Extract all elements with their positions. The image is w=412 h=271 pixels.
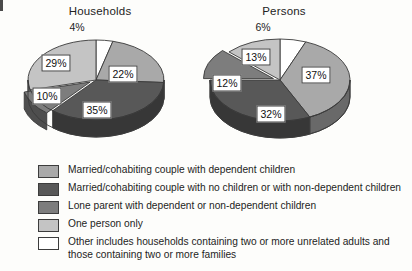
pie-label-households-2: 35%: [82, 102, 111, 119]
legend-item-other: Other includes households containing two…: [0, 235, 412, 261]
legend-item-lone-parent: Lone parent with dependent or non-depend…: [0, 199, 412, 214]
pie-label-households-1: 22%: [108, 66, 137, 83]
legend-label-married-no-children: Married/cohabiting couple with no childr…: [68, 181, 401, 194]
chart-title-persons: Persons: [194, 4, 374, 19]
pie-charts-area: Households 4% 22%35%10%29% Persons 6% 37…: [0, 0, 412, 160]
legend-swatch-other: [38, 237, 59, 250]
pie-label-persons-3: 12%: [212, 75, 241, 92]
legend-swatch-married-no-children: [38, 183, 59, 196]
legend-label-married-dependent: Married/cohabiting couple with dependent…: [68, 163, 295, 176]
callout-households: 4%: [12, 20, 188, 34]
figure-root: Households 4% 22%35%10%29% Persons 6% 37…: [0, 0, 412, 271]
chart-persons: Persons 6% 37%32%12%13%: [194, 0, 374, 152]
pie-label-persons-2: 32%: [256, 106, 285, 123]
pie-wrap-persons: 37%32%12%13%: [194, 34, 374, 152]
legend-item-one-person: One person only: [0, 217, 412, 232]
chart-households: Households 4% 22%35%10%29%: [12, 0, 188, 152]
legend-label-other: Other includes households containing two…: [68, 235, 412, 261]
legend-swatch-married-dependent: [38, 165, 59, 178]
pie-label-households-3: 10%: [32, 88, 61, 105]
legend: Married/cohabiting couple with dependent…: [0, 163, 412, 271]
legend-item-married-no-children: Married/cohabiting couple with no childr…: [0, 181, 412, 196]
pie-wrap-households: 22%35%10%29%: [12, 34, 188, 152]
legend-item-married-dependent: Married/cohabiting couple with dependent…: [0, 163, 412, 178]
legend-label-lone-parent: Lone parent with dependent or non-depend…: [68, 199, 316, 212]
pie-label-persons-1: 37%: [301, 67, 330, 84]
pie-svg-persons: [194, 34, 374, 152]
pie-label-persons-4: 13%: [241, 49, 270, 66]
legend-swatch-one-person: [38, 219, 59, 232]
legend-swatch-lone-parent: [38, 201, 59, 214]
chart-title-households: Households: [12, 4, 188, 19]
pie-label-households-4: 29%: [41, 55, 70, 72]
legend-label-one-person: One person only: [68, 217, 143, 230]
callout-persons: 6%: [194, 20, 374, 34]
